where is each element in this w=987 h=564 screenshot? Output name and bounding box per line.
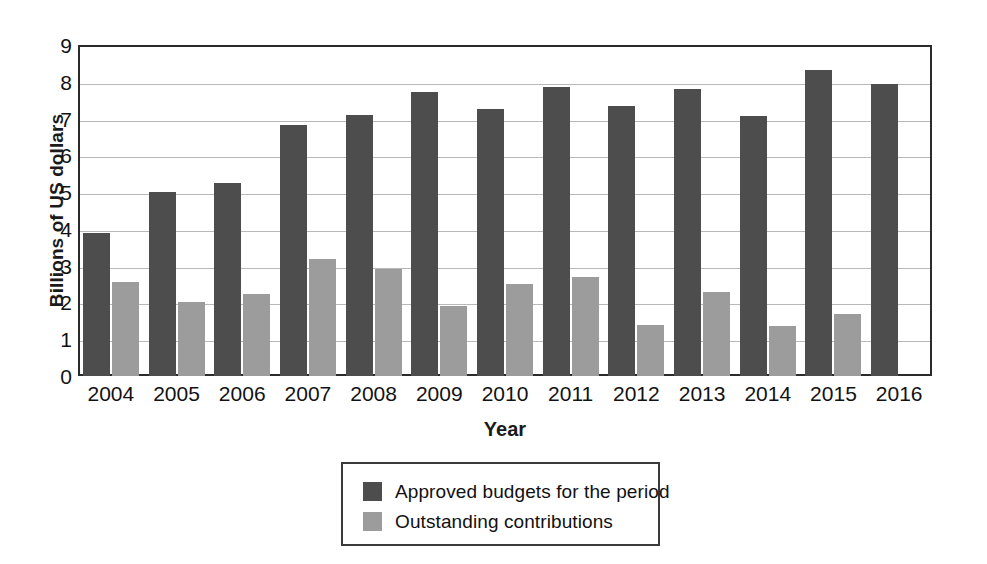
y-tick-label: 5 — [42, 182, 72, 203]
legend-entry: Approved budgets for the period — [363, 477, 658, 506]
x-tick-label-2009: 2009 — [416, 381, 463, 406]
x-axis-title: Year — [78, 418, 932, 441]
y-tick-label: 4 — [42, 218, 72, 239]
x-tick-label-2013: 2013 — [679, 381, 726, 406]
x-tick-label-2006: 2006 — [219, 381, 266, 406]
x-tick-label-2010: 2010 — [482, 381, 529, 406]
y-tick-label: 6 — [42, 145, 72, 166]
x-tick-label-2015: 2015 — [810, 381, 857, 406]
legend-swatch-icon — [363, 482, 382, 501]
y-axis-tick-labels: 0123456789 — [40, 45, 72, 376]
x-axis-tick-labels: 2004200520062007200820092010201120122013… — [78, 381, 932, 411]
gridline — [80, 341, 930, 342]
y-tick-label: 8 — [42, 71, 72, 92]
x-tick-label-2012: 2012 — [613, 381, 660, 406]
x-tick-label-2008: 2008 — [350, 381, 397, 406]
legend-swatch-icon — [363, 512, 382, 531]
legend-label: Approved budgets for the period — [395, 481, 670, 503]
y-tick-label: 3 — [42, 255, 72, 276]
gridline — [80, 231, 930, 232]
chart-page: Billions of US dollars 0123456789 200420… — [0, 0, 987, 564]
x-tick-label-2005: 2005 — [153, 381, 200, 406]
legend-entry: Outstanding contributions — [363, 507, 658, 536]
x-tick-label-2014: 2014 — [744, 381, 791, 406]
legend-label: Outstanding contributions — [395, 511, 613, 533]
gridline — [80, 157, 930, 158]
y-tick-label: 0 — [42, 366, 72, 387]
gridline — [80, 84, 930, 85]
gridline — [80, 304, 930, 305]
gridline — [80, 268, 930, 269]
legend: Approved budgets for the periodOutstandi… — [341, 462, 660, 546]
y-tick-label: 9 — [42, 35, 72, 56]
x-tick-label-2011: 2011 — [548, 381, 593, 406]
x-tick-label-2007: 2007 — [285, 381, 332, 406]
plot-area — [78, 45, 932, 376]
y-tick-label: 1 — [42, 329, 72, 350]
gridline — [80, 121, 930, 122]
gridline — [80, 194, 930, 195]
y-tick-label: 7 — [42, 108, 72, 129]
x-tick-label-2016: 2016 — [876, 381, 923, 406]
y-tick-label: 2 — [42, 292, 72, 313]
x-tick-label-2004: 2004 — [87, 381, 134, 406]
